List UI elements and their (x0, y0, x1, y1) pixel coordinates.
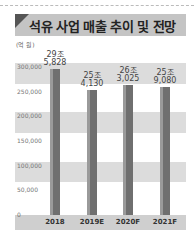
y-tick-label: 0 (17, 211, 21, 218)
bar-chart: 050,000100,000150,000200,000250,000300,0… (15, 0, 186, 247)
bar-2021F (160, 87, 170, 215)
y-tick-label: 200,000 (17, 112, 42, 119)
x-tick-label: 2021F (145, 218, 185, 226)
y-tick-label: 100,000 (17, 162, 42, 169)
bar-2020F (123, 85, 133, 215)
value-label: 25조9,080 (145, 69, 185, 85)
value-label-line: 4,130 (72, 80, 112, 88)
value-label: 26조3,025 (108, 67, 148, 83)
value-label: 29조5,828 (35, 51, 75, 67)
bar-2018 (50, 69, 60, 215)
value-label-line: 9,080 (145, 77, 185, 85)
y-tick-label: 50,000 (17, 186, 38, 193)
x-tick-label: 2019E (72, 218, 112, 226)
bar-2019E (87, 90, 97, 215)
y-tick-label: 250,000 (17, 88, 42, 95)
value-label: 25조4,130 (72, 72, 112, 88)
value-label-line: 5,828 (35, 59, 75, 67)
x-tick-label: 2018 (35, 218, 75, 226)
y-tick-label: 150,000 (17, 137, 42, 144)
x-tick-label: 2020F (108, 218, 148, 226)
value-label-line: 3,025 (108, 75, 148, 83)
